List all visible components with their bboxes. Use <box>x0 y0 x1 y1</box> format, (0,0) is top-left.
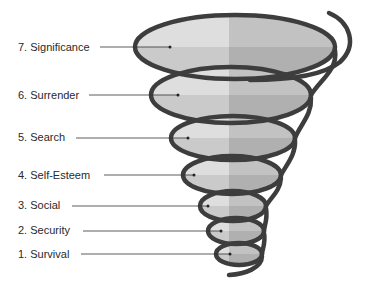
level-label-3: 3. Social <box>18 198 60 212</box>
level-label-1: 1. Survival <box>18 247 69 261</box>
level-disks <box>135 15 335 265</box>
level-label-2: 2. Security <box>18 223 70 237</box>
spiral-funnel-diagram: 7. Significance 6. Surrender 5. Search 4… <box>0 0 372 300</box>
level-label-4: 4. Self-Esteem <box>18 168 90 182</box>
level-label-6: 6. Surrender <box>18 88 79 102</box>
level-label-7: 7. Significance <box>18 40 90 54</box>
level-label-5: 5. Search <box>18 130 65 144</box>
